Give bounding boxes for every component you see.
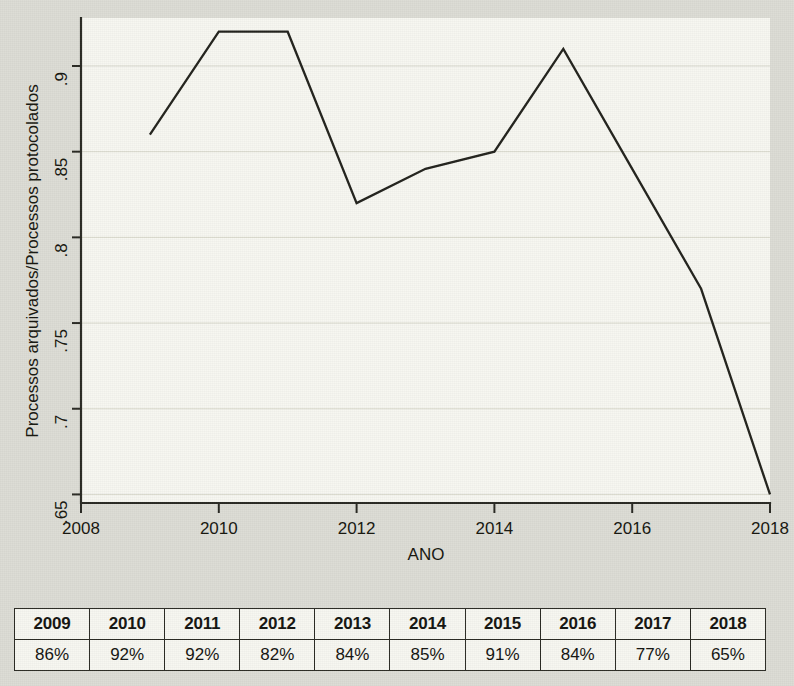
table-value-cell: 82% (240, 640, 315, 671)
x-tick-label: 2016 (613, 519, 651, 538)
line-chart-figure: .65.7.75.8.85.9 200820102012201420162018… (0, 0, 794, 596)
table-value-cell: 65% (690, 640, 765, 671)
x-tick-label: 2010 (200, 519, 238, 538)
yearly-percentage-table: 2009201020112012201320142015201620172018… (14, 608, 766, 671)
y-tick-label: .9 (52, 72, 71, 86)
table-header-cell: 2016 (540, 609, 615, 640)
table-header-cell: 2009 (15, 609, 90, 640)
table-header-cell: 2015 (465, 609, 540, 640)
x-tick-label: 2012 (338, 519, 376, 538)
table-value-cell: 92% (165, 640, 240, 671)
table-header-cell: 2014 (390, 609, 465, 640)
plot-area-background (81, 18, 770, 503)
table-value-cell: 84% (315, 640, 390, 671)
table-value-cell: 84% (540, 640, 615, 671)
y-tick-label: .8 (52, 243, 71, 257)
y-tick-label: .85 (52, 158, 71, 182)
data-table-container: 2009201020112012201320142015201620172018… (14, 608, 766, 671)
x-tick-label: 2008 (62, 519, 100, 538)
table-header-cell: 2017 (615, 609, 690, 640)
table-value-cell: 77% (615, 640, 690, 671)
x-axis-title: ANO (408, 545, 445, 564)
table-header-cell: 2012 (240, 609, 315, 640)
table-value-row: 86%92%92%82%84%85%91%84%77%65% (15, 640, 766, 671)
y-axis-title: Processos arquivados/Processos protocola… (23, 84, 42, 437)
table-value-cell: 91% (465, 640, 540, 671)
chart-canvas: .65.7.75.8.85.9 200820102012201420162018… (0, 0, 794, 596)
x-tick-label: 2014 (475, 519, 513, 538)
table-header-row: 2009201020112012201320142015201620172018 (15, 609, 766, 640)
table-value-cell: 92% (90, 640, 165, 671)
x-tick-label: 2018 (751, 519, 789, 538)
y-tick-label: .75 (52, 329, 71, 353)
table-header-cell: 2011 (165, 609, 240, 640)
table-header-cell: 2013 (315, 609, 390, 640)
table-value-cell: 86% (15, 640, 90, 671)
table-header-cell: 2010 (90, 609, 165, 640)
table-value-cell: 85% (390, 640, 465, 671)
y-tick-label: .7 (52, 415, 71, 429)
table-header-cell: 2018 (690, 609, 765, 640)
